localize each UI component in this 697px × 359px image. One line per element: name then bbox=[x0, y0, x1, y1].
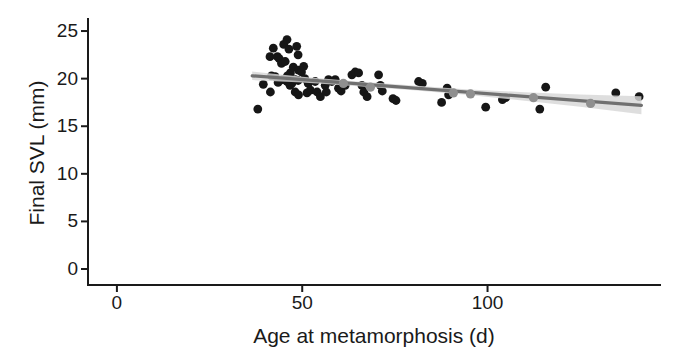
scatter-plot-figure: Final SVL (mm) Age at metamorphosis (d) … bbox=[0, 0, 697, 359]
data-point bbox=[253, 105, 262, 114]
data-point bbox=[541, 83, 550, 92]
data-point bbox=[259, 80, 268, 89]
y-tick-label: 0 bbox=[38, 258, 78, 280]
data-point bbox=[392, 96, 401, 105]
x-tick-label: 50 bbox=[272, 292, 332, 314]
data-point bbox=[299, 62, 308, 71]
x-tick-label: 100 bbox=[458, 292, 518, 314]
data-point bbox=[294, 50, 303, 59]
y-tick-label: 15 bbox=[38, 115, 78, 137]
y-tick-label: 20 bbox=[38, 68, 78, 90]
data-point bbox=[294, 90, 303, 99]
x-axis-title: Age at metamorphosis (d) bbox=[224, 324, 524, 348]
y-tick-label: 5 bbox=[38, 210, 78, 232]
data-point bbox=[266, 88, 275, 97]
data-point bbox=[374, 70, 383, 79]
data-point bbox=[363, 92, 372, 101]
gray-data-point bbox=[339, 79, 348, 88]
data-point bbox=[322, 88, 331, 97]
data-point bbox=[285, 45, 294, 54]
x-tick-label: 0 bbox=[87, 292, 147, 314]
gray-data-point bbox=[449, 88, 458, 97]
data-point bbox=[481, 103, 490, 112]
gray-data-point bbox=[529, 93, 538, 102]
data-point bbox=[269, 44, 278, 53]
data-point bbox=[437, 98, 446, 107]
gray-data-point bbox=[586, 99, 595, 108]
gray-data-point bbox=[366, 83, 375, 92]
data-point bbox=[535, 105, 544, 114]
data-point bbox=[354, 69, 363, 78]
gray-data-point bbox=[466, 89, 475, 98]
y-tick-label: 25 bbox=[38, 20, 78, 42]
data-point bbox=[283, 35, 292, 44]
data-point bbox=[281, 57, 290, 66]
y-tick-label: 10 bbox=[38, 163, 78, 185]
data-point bbox=[292, 42, 301, 51]
